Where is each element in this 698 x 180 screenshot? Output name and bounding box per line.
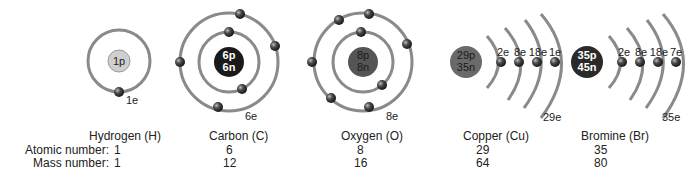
atomic-number-bromine: 35	[594, 143, 607, 157]
electron	[356, 27, 366, 37]
atomic-number-label: Atomic number:	[24, 143, 109, 157]
shell-3-count: 18e	[529, 46, 547, 58]
oxygen-atom: 8p 8n 8e	[307, 9, 412, 122]
shell-1-count: 2e	[618, 46, 630, 58]
electron	[175, 57, 185, 67]
electron-count: 1e	[126, 94, 138, 106]
shell-2-count: 8e	[635, 46, 647, 58]
atom-name-hydrogen: Hydrogen (H)	[89, 129, 161, 143]
atomic-number-hydrogen: 1	[114, 143, 121, 157]
bromine-atom: 35p 45n 2e 8e 18e 7e 35e	[571, 14, 684, 123]
electron	[364, 102, 374, 112]
electron	[326, 93, 336, 103]
electron	[617, 57, 627, 67]
shell-3-count: 18e	[650, 46, 668, 58]
nucleus-neutrons: 35n	[457, 61, 475, 73]
nucleus-label: 1p	[113, 55, 125, 67]
electron	[364, 9, 374, 19]
atom-name-oxygen: Oxygen (O)	[341, 129, 403, 143]
electron	[114, 87, 124, 97]
nucleus-neutrons: 6n	[223, 61, 236, 73]
electron	[532, 57, 542, 67]
mass-number-label: Mass number:	[24, 156, 109, 170]
mass-number-copper: 64	[476, 156, 489, 170]
shell-arc-4	[541, 14, 562, 118]
shell-1-count: 2e	[497, 46, 509, 58]
nucleus-neutrons: 8n	[357, 61, 369, 73]
electron	[653, 57, 663, 67]
shell-4-count: 1e	[549, 46, 561, 58]
electron-count: 6e	[245, 110, 257, 122]
copper-atom: 29p 35n 2e 8e 18e 1e 29e	[450, 14, 562, 123]
atomic-number-oxygen: 8	[357, 143, 364, 157]
atom-name-carbon: Carbon (C)	[209, 129, 268, 143]
electron	[402, 39, 412, 49]
atom-name-bromine: Bromine (Br)	[581, 129, 649, 143]
shell-2-count: 8e	[514, 46, 526, 58]
electron	[224, 27, 234, 37]
electron	[635, 57, 645, 67]
electron	[334, 15, 344, 25]
nucleus-neutrons: 45n	[578, 61, 597, 73]
atom-name-copper: Copper (Cu)	[463, 129, 529, 143]
electron-count: 29e	[543, 111, 561, 123]
electron	[496, 57, 506, 67]
mass-number-carbon: 12	[223, 156, 236, 170]
carbon-atom: 6p 6n 6e	[175, 9, 280, 122]
nucleus-protons: 35p	[578, 49, 597, 61]
electron	[235, 9, 245, 19]
atomic-number-copper: 29	[476, 143, 489, 157]
atomic-number-carbon: 6	[226, 143, 233, 157]
mass-number-bromine: 80	[594, 156, 607, 170]
shell-4-count: 7e	[670, 46, 682, 58]
electron	[237, 84, 247, 94]
hydrogen-atom: 1p 1e	[88, 30, 150, 106]
mass-number-oxygen: 16	[354, 156, 367, 170]
electron	[270, 41, 280, 51]
electron	[377, 80, 387, 90]
electron	[213, 102, 223, 112]
electron-count: 8e	[386, 110, 398, 122]
electron	[550, 57, 560, 67]
electron	[514, 57, 524, 67]
nucleus-protons: 29p	[457, 49, 475, 61]
nucleus-protons: 6p	[223, 49, 236, 61]
electron	[307, 57, 317, 67]
electron	[671, 57, 681, 67]
nucleus-protons: 8p	[357, 49, 369, 61]
mass-number-hydrogen: 1	[114, 156, 121, 170]
electron-count: 35e	[662, 111, 680, 123]
